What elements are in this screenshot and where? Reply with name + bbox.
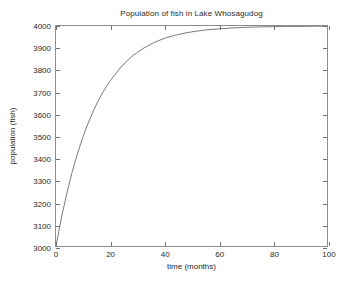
y-axis-tick-label: 3400 <box>33 155 51 164</box>
x-axis-tick-top <box>220 26 221 30</box>
y-axis-tick-label: 3000 <box>33 244 51 253</box>
x-axis-tick <box>220 242 221 246</box>
y-axis-tick-label: 3300 <box>33 177 51 186</box>
y-axis-tick-right <box>323 181 327 182</box>
x-axis-tick-top <box>111 26 112 30</box>
x-axis-tick-label: 40 <box>161 250 170 259</box>
y-axis-tick-right <box>323 137 327 138</box>
x-axis-tick-label: 20 <box>106 250 115 259</box>
x-axis-label: time (months) <box>55 262 328 271</box>
y-axis-tick <box>56 226 60 227</box>
x-axis-tick <box>111 242 112 246</box>
y-axis-tick <box>56 248 60 249</box>
y-axis-tick-right <box>323 93 327 94</box>
y-axis-tick-right <box>323 226 327 227</box>
y-axis-tick-label: 4000 <box>33 22 51 31</box>
plot-area: 3000310032003300340035003600370038003900… <box>55 25 328 247</box>
x-axis-tick-top <box>274 26 275 30</box>
chart-title: Population of fish in Lake Whosagudog <box>55 9 328 18</box>
y-axis-tick <box>56 115 60 116</box>
x-axis-tick-label: 80 <box>270 250 279 259</box>
x-axis-tick <box>274 242 275 246</box>
y-axis-tick-right <box>323 48 327 49</box>
y-axis-tick-label: 3800 <box>33 66 51 75</box>
y-axis-tick-label: 3200 <box>33 199 51 208</box>
y-axis-tick <box>56 204 60 205</box>
y-axis-tick <box>56 137 60 138</box>
data-line-series <box>56 26 327 246</box>
x-axis-tick-top <box>56 26 57 30</box>
x-axis-tick-top <box>165 26 166 30</box>
y-axis-tick-right <box>323 204 327 205</box>
y-axis-tick-label: 3600 <box>33 110 51 119</box>
y-axis-tick-label: 3700 <box>33 88 51 97</box>
x-axis-tick-top <box>329 26 330 30</box>
x-axis-tick-label: 0 <box>54 250 58 259</box>
y-axis-tick <box>56 181 60 182</box>
x-axis-tick-label: 60 <box>215 250 224 259</box>
y-axis-tick-right <box>323 115 327 116</box>
y-axis-tick-label: 3900 <box>33 44 51 53</box>
y-axis-tick-label: 3500 <box>33 133 51 142</box>
y-axis-tick-right <box>323 248 327 249</box>
y-axis-tick <box>56 48 60 49</box>
y-axis-tick-label: 3100 <box>33 221 51 230</box>
x-axis-tick <box>56 242 57 246</box>
y-axis-tick-right <box>323 70 327 71</box>
x-axis-tick <box>165 242 166 246</box>
figure-container: Population of fish in Lake Whosagudog 30… <box>0 0 347 283</box>
y-axis-label: population (fish) <box>8 108 17 165</box>
x-axis-tick <box>329 242 330 246</box>
y-axis-tick <box>56 93 60 94</box>
y-axis-tick <box>56 70 60 71</box>
y-axis-tick-right <box>323 26 327 27</box>
y-axis-tick <box>56 159 60 160</box>
y-axis-tick-right <box>323 159 327 160</box>
x-axis-tick-label: 100 <box>322 250 335 259</box>
